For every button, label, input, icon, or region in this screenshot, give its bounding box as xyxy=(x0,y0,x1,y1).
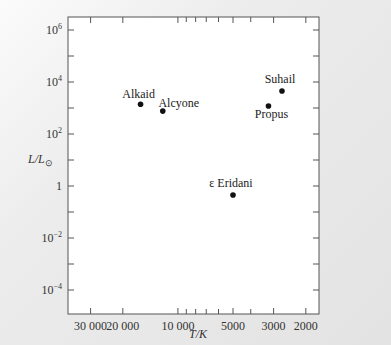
x-tick-label: 30 000 xyxy=(74,319,107,333)
star-point xyxy=(230,192,236,198)
y-tick-label: 1 xyxy=(56,179,62,193)
star-label: Alkaid xyxy=(122,87,155,101)
plot-area xyxy=(68,17,319,314)
y-tick-label: 10−4 xyxy=(41,282,62,297)
star-label: Suhail xyxy=(265,72,296,86)
hr-diagram: 106104102110−210−430 00020 00010 0005000… xyxy=(0,0,391,345)
star-label: ε Eridani xyxy=(209,176,253,190)
star-label: Alcyone xyxy=(158,96,199,110)
x-tick-label: 3000 xyxy=(262,319,286,333)
star-label: Propus xyxy=(255,107,289,121)
x-tick-label: 5000 xyxy=(221,319,245,333)
y-tick-label: 106 xyxy=(46,22,62,37)
star-point xyxy=(138,101,144,107)
x-tick-label: 20 000 xyxy=(106,319,139,333)
y-tick-label: 102 xyxy=(46,126,62,141)
x-axis-title: T/K xyxy=(189,327,208,341)
x-tick-label: 2000 xyxy=(294,319,318,333)
y-tick-label: 104 xyxy=(46,74,62,89)
star-point xyxy=(279,88,285,94)
y-tick-label: 10−2 xyxy=(41,230,62,245)
y-axis-title: L/L⊙ xyxy=(27,152,53,168)
